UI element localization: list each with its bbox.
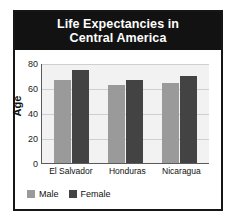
bar-female-honduras [126, 80, 143, 163]
bar-female-nicaragua [180, 76, 197, 163]
bar-male-honduras [108, 85, 125, 163]
plot-area: 80 60 40 20 0 [41, 64, 209, 164]
legend-item-male: Male [27, 189, 59, 199]
chart-body: Age 80 60 40 20 0 [15, 50, 221, 209]
chart-title-line-1: Life Expectancies in [57, 17, 179, 31]
x-tick-honduras: Honduras [109, 166, 146, 176]
legend-swatch-female-icon [69, 190, 77, 198]
bars-layer [42, 64, 209, 163]
bar-group-nicaragua [162, 64, 197, 163]
x-tick-nicaragua: Nicaragua [162, 166, 201, 176]
y-tick-0: 0 [33, 159, 38, 169]
plot-wrapper: 80 60 40 20 0 [41, 64, 209, 164]
y-axis-label: Age [11, 96, 23, 117]
y-tick-60: 60 [28, 84, 38, 94]
bar-male-nicaragua [162, 83, 179, 163]
bar-group-el-salvador [54, 64, 89, 163]
bar-male-el-salvador [54, 80, 71, 163]
x-tick-el-salvador: El Salvador [49, 166, 92, 176]
bar-female-el-salvador [72, 70, 89, 163]
y-tick-20: 20 [28, 134, 38, 144]
x-axis-tick-labels: El Salvador Honduras Nicaragua [41, 166, 209, 176]
chart-figure: Life Expectancies in Central America Age… [13, 10, 223, 211]
legend-label-female: Female [81, 189, 111, 199]
chart-title-banner: Life Expectancies in Central America [15, 12, 221, 50]
y-tick-40: 40 [28, 109, 38, 119]
chart-title-line-2: Central America [70, 31, 167, 45]
bar-group-honduras [108, 64, 143, 163]
chart-title: Life Expectancies in Central America [51, 17, 185, 45]
y-tick-80: 80 [28, 59, 38, 69]
legend-item-female: Female [69, 189, 111, 199]
legend-label-male: Male [39, 189, 59, 199]
legend-swatch-male-icon [27, 190, 35, 198]
chart-legend: Male Female [27, 189, 111, 199]
